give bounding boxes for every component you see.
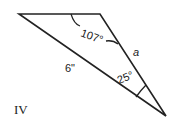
angle-arc-107-end <box>106 41 118 44</box>
angle-label-bottom: 25° <box>115 68 135 85</box>
side-label-6in: 6" <box>65 62 75 74</box>
angle-arc-25 <box>136 85 146 97</box>
angle-label-top: 107° <box>79 27 104 46</box>
angle-arc-107 <box>71 14 80 26</box>
side-label-a: a <box>133 46 139 58</box>
triangle-diagram: 107° 25° 6" a IV <box>0 0 177 132</box>
figure-label: IV <box>14 102 28 117</box>
